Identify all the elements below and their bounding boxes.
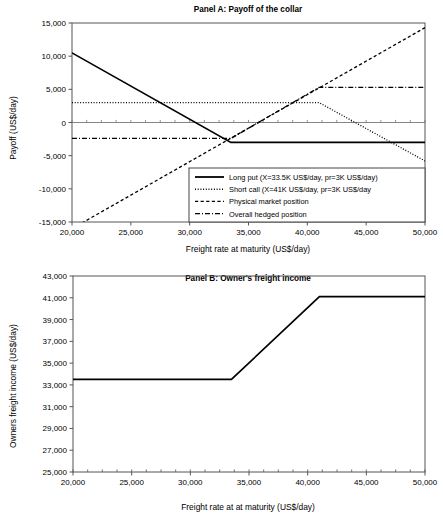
- panel-b-x-tick-label: 30,000: [178, 478, 203, 487]
- panel-a-x-tick-label: 30,000: [177, 228, 202, 237]
- panel-a-x-tick-label: 45,000: [354, 228, 379, 237]
- panel-b-svg: Panel B: Owner's freight income 25,00027…: [0, 262, 443, 528]
- panel-b-plot-area: 25,00027,00029,00031,00033,00035,00037,0…: [43, 272, 438, 487]
- panel-b-x-tick-label: 50,000: [413, 478, 438, 487]
- legend-label-0: Long put (X=33.5K US$/day, pr=3K US$/day…: [229, 173, 378, 182]
- panel-a-x-tick-label: 40,000: [295, 228, 320, 237]
- panel-a-series-1: [72, 103, 425, 161]
- legend-label-3: Overall hedged position: [229, 210, 307, 219]
- panel-a-x-axis-label: Freight rate at maturity (US$/day): [186, 244, 310, 254]
- panel-b: Panel B: Owner's freight income 25,00027…: [0, 262, 443, 528]
- panel-a-y-tick-label: -10,000: [39, 185, 67, 194]
- panel-b-x-tick-label: 40,000: [295, 478, 320, 487]
- panel-a-y-tick-label: 15,000: [42, 19, 67, 28]
- panel-a-series-3: [72, 87, 425, 138]
- panel-b-x-tick-label: 45,000: [354, 478, 379, 487]
- panel-a-svg: Panel A: Payoff of the collar -15,000-10…: [0, 0, 443, 262]
- figure-container: Panel A: Payoff of the collar -15,000-10…: [0, 0, 443, 528]
- panel-a-x-tick-label: 50,000: [413, 228, 438, 237]
- panel-b-y-tick-label: 43,000: [43, 272, 68, 281]
- panel-b-series-0: [73, 297, 425, 380]
- panel-b-x-tick-label: 20,000: [61, 478, 86, 487]
- panel-b-y-axis-label: Owners freight income (US$/day): [8, 324, 18, 448]
- panel-b-x-tick-label: 25,000: [119, 478, 144, 487]
- legend-label-2: Physical market position: [229, 197, 309, 206]
- panel-b-y-tick-label: 29,000: [43, 424, 68, 433]
- panel-a-y-axis-label: Payoff (US$/day): [8, 96, 18, 160]
- panel-b-title: Panel B: Owner's freight income: [185, 274, 311, 283]
- panel-b-y-tick-label: 35,000: [43, 359, 68, 368]
- panel-b-y-tick-label: 27,000: [43, 446, 68, 455]
- panel-b-x-axis-label: Freight rate at at maturity (US$/day): [181, 502, 315, 512]
- panel-b-y-tick-label: 39,000: [43, 316, 68, 325]
- panel-b-y-tick-label: 33,000: [43, 381, 68, 390]
- legend-label-1: Short call (X=41K US$/day, pr=3K US$/day: [229, 185, 371, 194]
- panel-a-x-tick-label: 25,000: [119, 228, 144, 237]
- panel-a-y-tick-label: -15,000: [39, 218, 67, 227]
- panel-b-frame: [73, 276, 425, 472]
- panel-a-x-tick-label: 35,000: [236, 228, 261, 237]
- panel-a-series-0: [72, 53, 425, 143]
- panel-b-y-tick-label: 37,000: [43, 337, 68, 346]
- panel-b-y-tick-label: 41,000: [43, 294, 68, 303]
- panel-a-x-tick-label: 20,000: [60, 228, 85, 237]
- panel-a-title: Panel A: Payoff of the collar: [194, 5, 303, 14]
- panel-a-y-tick-label: 5,000: [46, 85, 67, 94]
- panel-b-x-tick-label: 35,000: [237, 478, 262, 487]
- panel-b-y-tick-label: 25,000: [43, 468, 68, 477]
- panel-a: Panel A: Payoff of the collar -15,000-10…: [0, 0, 443, 262]
- panel-a-y-tick-label: 0: [62, 119, 67, 128]
- panel-a-y-tick-label: 10,000: [42, 52, 67, 61]
- panel-b-y-tick-label: 31,000: [43, 403, 68, 412]
- panel-a-y-tick-label: -5,000: [43, 152, 66, 161]
- panel-a-legend: Long put (X=33.5K US$/day, pr=3K US$/day…: [189, 168, 425, 222]
